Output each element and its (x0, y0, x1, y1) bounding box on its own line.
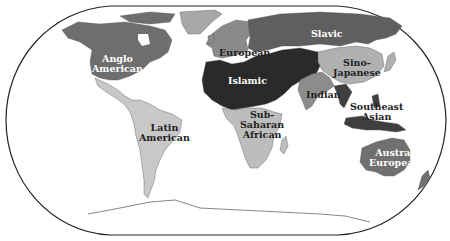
japan-islands (384, 52, 396, 72)
label-islamic: Islamic (228, 76, 267, 86)
label-line: European (369, 158, 420, 168)
label-austral-european: Austral European (369, 148, 420, 168)
label-slavic: Slavic (311, 29, 343, 39)
label-line: Asian (350, 112, 403, 122)
label-line: Japanese (333, 68, 381, 78)
label-line: American (139, 133, 190, 143)
label-line: European (219, 48, 270, 58)
label-indian: Indian (306, 90, 341, 100)
greenland-region (180, 10, 222, 34)
label-line: Indian (306, 90, 341, 100)
label-southeast-asian: Southeast Asian (350, 102, 403, 122)
label-line: Islamic (228, 76, 267, 86)
label-anglo-american: Anglo American (92, 54, 143, 74)
antarctica (88, 200, 370, 222)
label-line: Slavic (311, 29, 343, 39)
label-line: African (240, 130, 284, 140)
label-sub-saharan-african: Sub- Saharan African (240, 110, 284, 140)
arctic-islands (120, 12, 175, 24)
british-isles (208, 34, 214, 44)
label-sino-japanese: Sino- Japanese (333, 58, 381, 78)
label-latin-american: Latin American (139, 123, 190, 143)
label-european: European (219, 48, 270, 58)
label-line: American (92, 64, 143, 74)
